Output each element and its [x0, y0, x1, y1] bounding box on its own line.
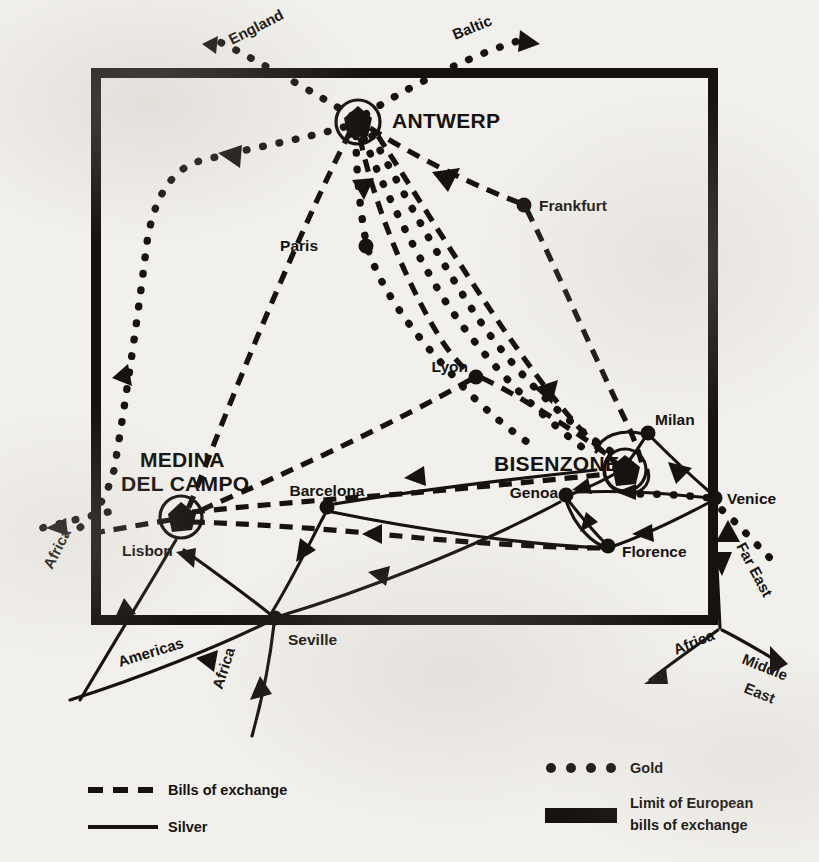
legend-label-bills-of-exchange: Bills of exchange: [168, 782, 287, 798]
legend-label-silver: Silver: [168, 819, 208, 835]
region-label-africa-northwest: Africa: [40, 525, 75, 571]
legend-entry-gold: Gold: [546, 760, 663, 776]
fair-labels: ANTWERP MEDINA DEL CAMPO BISENZONE: [121, 109, 619, 495]
city-node-frankfurt: [517, 198, 532, 213]
silver-africa-seville: [252, 624, 274, 736]
city-node-milan: [641, 426, 656, 441]
city-label-frankfurt: Frankfurt: [539, 197, 607, 214]
arrowhead-seville-lisbon: [176, 548, 196, 568]
legend-entry-bills-of-exchange: Bills of exchange: [88, 782, 287, 798]
city-node-genoa: [559, 488, 574, 503]
city-label-lyon: Lyon: [432, 358, 468, 375]
bills-frankfurt-bisenzone: [527, 210, 642, 464]
legend-entry-limit: Limit of European bills of exchange: [545, 795, 753, 833]
legend-entry-silver: Silver: [88, 819, 208, 835]
arrowhead-africa-south: [250, 676, 272, 700]
arrowhead-barcelona-florence: [362, 524, 382, 544]
legend-label-limit-line1: Limit of European: [630, 795, 753, 811]
legend-label-limit-line2: bills of exchange: [630, 817, 748, 833]
city-label-milan: Milan: [655, 411, 695, 428]
region-label-england: England: [226, 6, 286, 48]
legend-gold-dot-3: [586, 763, 596, 773]
city-node-seville: [268, 611, 283, 626]
legend-gold-dot-1: [546, 763, 556, 773]
arrowhead-gold-iberia: [218, 145, 242, 168]
trade-route-map: ANTWERP MEDINA DEL CAMPO BISENZONE Paris…: [0, 0, 819, 862]
city-label-seville: Seville: [288, 631, 337, 648]
city-node-barcelona: [320, 500, 335, 515]
figure-page: ANTWERP MEDINA DEL CAMPO BISENZONE Paris…: [0, 0, 819, 862]
legend-gold-dot-4: [606, 763, 616, 773]
region-label-baltic: Baltic: [450, 12, 494, 43]
city-label-genoa: Genoa: [510, 484, 559, 501]
bills-antwerp-frankfurt: [370, 128, 520, 203]
city-label-florence: Florence: [622, 543, 687, 560]
fair-label-medina-line2: DEL CAMPO: [121, 472, 249, 495]
arrowhead-gold-antwerp-bis: [432, 168, 460, 192]
legend-swatch-thick-bar: [545, 808, 617, 823]
city-node-lyon: [469, 370, 484, 385]
silver-seville-lisbon: [184, 550, 270, 614]
arrowhead-gold-england: [202, 36, 218, 54]
city-node-florence: [601, 539, 616, 554]
arrowhead-gold-baltic: [518, 30, 540, 52]
city-label-barcelona: Barcelona: [290, 482, 365, 499]
city-node-venice: [708, 491, 723, 506]
city-label-venice: Venice: [727, 490, 776, 507]
bills-antwerp-bisenzone: [378, 136, 620, 466]
region-label-far-east: Far East: [733, 539, 776, 599]
city-label-lisbon: Lisbon: [122, 542, 173, 559]
silver-venice-florence: [614, 502, 710, 546]
map-legend: Bills of exchange Silver Gold Limit of E…: [88, 760, 753, 835]
region-label-africa-southeast: Africa: [671, 626, 717, 658]
legend-label-gold: Gold: [630, 760, 663, 776]
arrowhead-africa-se: [644, 668, 668, 684]
region-label-middle-east-line2: East: [742, 679, 778, 707]
city-label-paris: Paris: [280, 237, 318, 254]
city-node-paris: [359, 239, 374, 254]
arrowhead-barcelona-bisenzone: [404, 466, 426, 486]
arrowhead-seville-barcelona: [296, 538, 316, 562]
fair-label-bisenzone: BISENZONE: [494, 452, 619, 475]
region-label-americas: Americas: [116, 634, 186, 670]
silver-americas-seville: [70, 620, 272, 700]
fair-label-medina-line1: MEDINA: [140, 448, 225, 471]
legend-gold-dot-2: [566, 763, 576, 773]
fair-label-antwerp: ANTWERP: [392, 109, 500, 132]
arrowhead-gold-iberia-2: [112, 364, 132, 386]
